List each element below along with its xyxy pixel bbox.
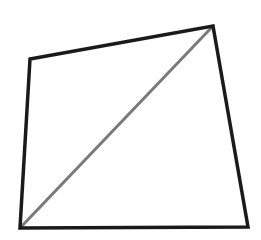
quadrilateral-diagram xyxy=(0,0,261,240)
quadrilateral-outline xyxy=(20,26,248,228)
